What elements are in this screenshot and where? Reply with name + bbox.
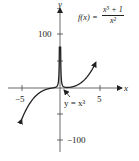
- asymptote-label: y = x³: [64, 99, 85, 108]
- fraction-denominator: x²: [102, 16, 124, 25]
- x-tick-label-neg5: −5: [15, 95, 25, 104]
- function-label-fraction: x⁵ + 1 x²: [102, 6, 124, 25]
- f-curve-right-branch: [61, 47, 96, 88]
- y-axis-label: y: [58, 0, 62, 9]
- f-curve-left-branch: [22, 47, 60, 120]
- function-label-prefix: f(x) =: [78, 13, 98, 22]
- x-axis-label: x: [124, 84, 128, 93]
- fraction-numerator: x⁵ + 1: [102, 6, 124, 16]
- x-tick-label-5: 5: [97, 95, 102, 104]
- y-tick-label-100: 100: [38, 30, 52, 39]
- y-tick-label-neg100: −100: [67, 136, 86, 145]
- asymptote-label-arrow: [64, 90, 70, 97]
